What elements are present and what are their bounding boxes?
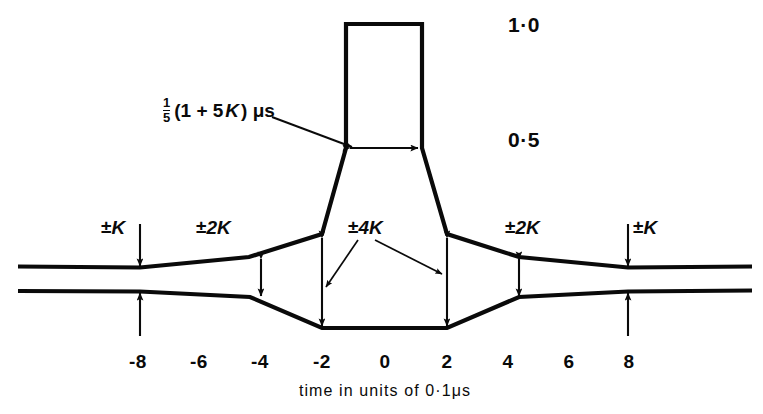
tolerance-leader-center-left [326,240,358,287]
tolerance-value: 2K [515,217,539,238]
tolerance-label-right-inner: ±2K [505,218,540,237]
plus-minus-sign: ± [348,217,358,236]
plus-minus-sign: ± [196,217,206,236]
lower-envelope-trace [18,291,752,329]
formula-body-open: (1 + 5 [174,101,223,120]
tick-label-minus-8: -8 [129,352,147,371]
tick-label-minus-4: -4 [251,352,269,371]
tolerance-label-center: ±4K [348,218,383,237]
plus-minus-sign: ± [633,217,643,236]
tick-label-4: 4 [502,352,513,371]
tick-label-minus-6: -6 [190,352,208,371]
tolerance-label-right-outer: ±K [633,218,657,237]
tick-label-8: 8 [623,352,634,371]
tick-label-minus-2: -2 [313,352,331,371]
tolerance-value: K [111,217,125,238]
tolerance-value: 2K [206,217,230,238]
axis-caption: time in units of 0·1μs [299,383,471,399]
fraction-denominator: 5 [163,110,170,125]
tolerance-label-left-outer: ±K [101,218,125,237]
plus-minus-sign: ± [505,217,515,236]
amplitude-label-0-5: 0·5 [508,129,540,150]
tolerance-leader-center-right [375,240,442,274]
formula-leader-arrow [272,117,352,147]
pulse-width-formula: 1 5 (1 + 5 K ) μs [163,96,275,124]
tick-label-6: 6 [563,352,574,371]
tick-label-2: 2 [441,352,452,371]
fraction-one-fifth: 1 5 [163,96,170,124]
tolerance-label-left-inner: ±2K [196,218,231,237]
tolerance-value: K [643,217,657,238]
fraction-numerator: 1 [163,96,170,110]
plus-minus-sign: ± [101,217,111,236]
tolerance-value: 4K [358,217,382,238]
formula-variable-k: K [225,101,239,120]
formula-body-close: ) μs [241,101,275,120]
amplitude-label-1-0: 1·0 [508,14,540,35]
tick-label-0: 0 [379,352,390,371]
